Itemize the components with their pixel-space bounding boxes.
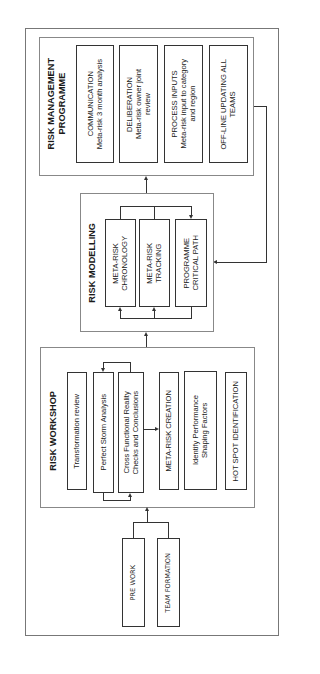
transformation-review-box: Transformation review [67, 372, 87, 490]
pre-work-box: PRE WORK [122, 538, 145, 627]
modelling-bottom-arrow-icon-1 [118, 307, 122, 311]
modelling-top-stub-2 [154, 206, 155, 219]
workshop-loop-bottom [103, 500, 131, 501]
risk-modelling-title: RISK MODELLING [84, 219, 102, 307]
identify-performance-box: Identify Performance Shaping Factors [184, 371, 217, 490]
communication-box: COMMUNICATION Meta-risk 3 month analysis [76, 45, 114, 163]
perfect-storm-analysis-box: Perfect Storm Analysis [93, 372, 114, 493]
hot-spot-identification-box: HOT SPOT IDENTIFICATION [225, 372, 247, 490]
deliberation-box: DELIBERATION Meta-risk owner joint revie… [119, 45, 158, 163]
workshop-loop-top [103, 362, 131, 363]
workshop-loop-bottom-arrow-icon [128, 493, 132, 497]
modelling-bottom-connector [120, 318, 192, 319]
modelling-to-programme-arrow-icon [144, 176, 148, 180]
inputs-connector [133, 522, 169, 523]
inputs-to-workshop-arrow-icon [145, 507, 149, 511]
modelling-bottom-arrow-icon-2 [152, 307, 156, 311]
process-inputs-box: PROCESS INPUTS Meta-risk input to catego… [164, 45, 203, 163]
workshop-loop-top-right [130, 362, 131, 372]
workshop-loop-bottom-right [130, 497, 131, 501]
modelling-bottom-stub-2 [154, 310, 155, 319]
modelling-top-stub-1 [120, 206, 121, 219]
inputs-stub-2 [168, 522, 169, 538]
modelling-to-programme-line [146, 179, 147, 194]
modelling-bottom-stub-3 [191, 307, 192, 319]
workshop-to-modelling-arrow-icon [144, 332, 148, 336]
cross-to-creation-line [144, 429, 155, 430]
inputs-stub-1 [133, 522, 134, 538]
team-formation-box: TEAM FORMATION [157, 538, 180, 627]
meta-risk-chronology-box: META-RISK CHRONOLOGY [105, 219, 136, 307]
feedback-line-bottom [216, 262, 267, 263]
risk-management-programme-title: RISK MANAGEMENT PROGRAMME [46, 45, 74, 163]
workshop-loop-bottom-left [103, 493, 104, 501]
cross-functional-box: Cross Functional Reality Checks and Conc… [118, 372, 144, 493]
risk-workshop-title: RISK WORKSHOP [45, 372, 63, 490]
modelling-bottom-stub-1 [120, 310, 121, 319]
feedback-line-vertical [266, 106, 267, 263]
modelling-top-connector [120, 206, 192, 207]
offline-updating-box: OFF-LINE UPDATING ALL TEAMS [209, 45, 248, 163]
programme-critical-path-box: PROGRAMME CRITICAL PATH [175, 219, 207, 307]
meta-risk-tracking-box: META-RISK TRACKING [139, 219, 170, 307]
meta-risk-creation-box: META-RISK CREATION [159, 372, 179, 490]
